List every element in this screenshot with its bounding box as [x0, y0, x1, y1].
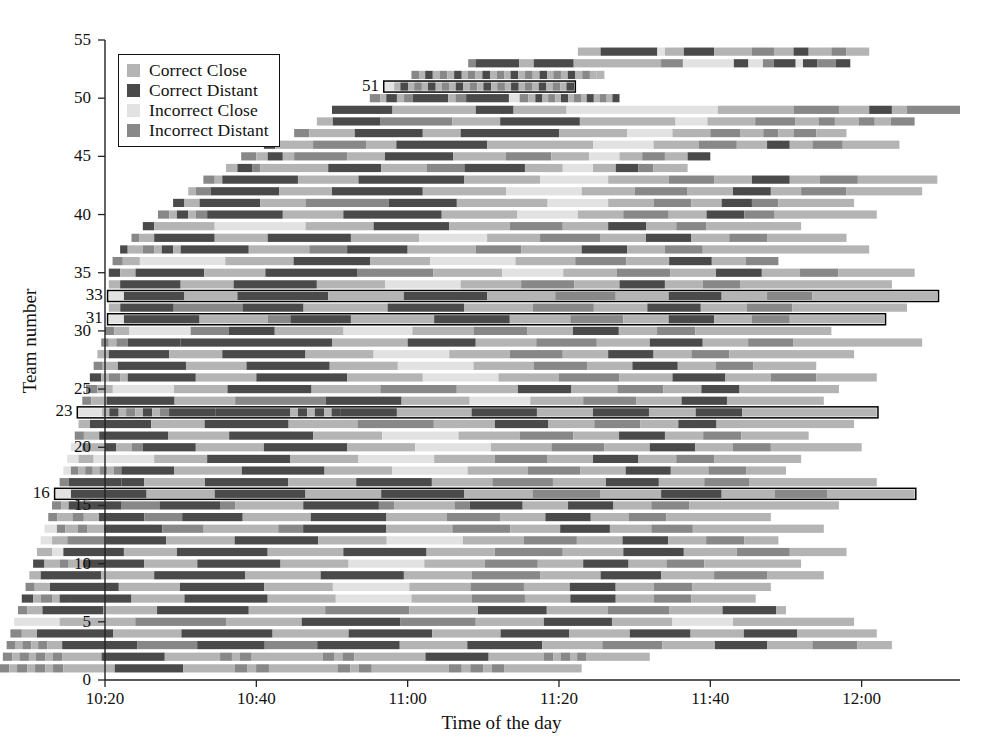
timeline-segment	[343, 548, 426, 556]
timeline-segment	[505, 82, 511, 90]
timeline-segment	[57, 525, 65, 533]
timeline-segment	[561, 94, 568, 102]
timeline-segment	[555, 292, 616, 300]
timeline-segment	[490, 71, 497, 79]
timeline-segment	[467, 641, 542, 649]
timeline-row	[109, 269, 915, 277]
timeline-segment	[381, 490, 464, 498]
timeline-segment	[404, 571, 472, 579]
timeline-row	[79, 420, 855, 428]
timeline-segment	[3, 653, 12, 661]
timeline-segment	[105, 443, 116, 451]
timeline-segment	[495, 455, 548, 463]
timeline-segment	[661, 59, 683, 67]
timeline-segment	[298, 176, 359, 184]
timeline-segment	[654, 164, 688, 172]
timeline-segment	[462, 71, 468, 79]
timeline-segment	[304, 304, 388, 312]
timeline-segment	[114, 327, 129, 335]
timeline-segment	[540, 71, 548, 79]
timeline-segment	[567, 106, 718, 114]
timeline-segment	[661, 490, 722, 498]
timeline-segment	[619, 432, 665, 440]
timeline-segment	[612, 94, 619, 102]
timeline-segment	[436, 82, 442, 90]
timeline-segment	[744, 210, 774, 218]
timeline-segment	[468, 71, 476, 79]
timeline-segment	[335, 653, 343, 661]
timeline-segment	[63, 466, 71, 474]
timeline-segment	[612, 618, 673, 626]
timeline-row	[90, 373, 877, 381]
timeline-segment	[196, 373, 257, 381]
timeline-row	[94, 362, 817, 370]
timeline-segment	[105, 327, 114, 335]
timeline-segment	[594, 304, 647, 312]
timeline-segment	[169, 210, 177, 218]
timeline-segment	[432, 629, 500, 637]
timeline-segment	[47, 641, 62, 649]
timeline-segment	[771, 443, 862, 451]
timeline-segment	[468, 466, 528, 474]
timeline-segment	[816, 129, 846, 137]
timeline-segment	[67, 536, 105, 544]
timeline-segment	[351, 315, 434, 323]
timeline-segment	[608, 176, 669, 184]
timeline-segment	[560, 82, 566, 90]
timeline-segment	[381, 164, 426, 172]
timeline-segment	[498, 373, 559, 381]
timeline-segment	[151, 420, 204, 428]
timeline-segment	[670, 269, 716, 277]
timeline-segment	[180, 583, 264, 591]
timeline-segment	[100, 466, 108, 474]
timeline-segment	[548, 94, 555, 102]
timeline-segment	[504, 71, 510, 79]
timeline-row	[241, 152, 710, 160]
timeline-segment	[580, 117, 676, 125]
timeline-segment	[548, 420, 594, 428]
timeline-segment	[691, 629, 744, 637]
timeline-segment	[545, 513, 590, 521]
timeline-segment	[455, 501, 470, 509]
timeline-row	[158, 210, 877, 218]
timeline-segment	[727, 397, 824, 405]
timeline-row	[113, 257, 779, 265]
timeline-segment	[237, 292, 328, 300]
timeline-segment	[354, 653, 425, 661]
timeline-segment	[424, 560, 485, 568]
timeline-segment	[113, 385, 174, 393]
timeline-segment	[450, 82, 456, 90]
timeline-segment	[661, 571, 714, 579]
y-tick-label: 45	[43, 146, 91, 166]
timeline-segment	[235, 536, 319, 544]
timeline-segment	[246, 362, 329, 370]
timeline-segment	[381, 117, 453, 125]
timeline-segment	[678, 362, 716, 370]
timeline-segment	[573, 432, 619, 440]
timeline-segment	[174, 466, 242, 474]
timeline-segment	[654, 199, 692, 207]
timeline-segment	[627, 129, 672, 137]
timeline-row	[173, 199, 854, 207]
timeline-segment	[663, 385, 701, 393]
timeline-segment	[666, 560, 704, 568]
x-axis-title: Time of the day	[0, 712, 1003, 734]
timeline-segment	[165, 653, 220, 661]
timeline-segment	[701, 385, 739, 393]
timeline-segment	[256, 373, 347, 381]
timeline-segment	[323, 653, 335, 661]
timeline-segment	[144, 513, 182, 521]
timeline-segment	[820, 176, 858, 184]
y-tick-label: 20	[43, 437, 91, 457]
timeline-segment	[449, 664, 462, 672]
timeline-segment	[128, 373, 196, 381]
timeline-segment	[803, 59, 818, 67]
timeline-segment	[691, 594, 755, 602]
timeline-segment	[183, 664, 234, 672]
timeline-segment	[548, 455, 593, 463]
timeline-segment	[542, 641, 602, 649]
timeline-segment	[79, 420, 90, 428]
timeline-segment	[184, 199, 199, 207]
timeline-segment	[422, 82, 428, 90]
timeline-segment	[600, 94, 607, 102]
